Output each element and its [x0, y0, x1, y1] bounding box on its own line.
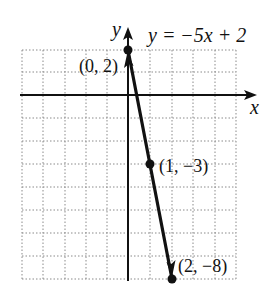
point-2-neg8: [168, 275, 177, 284]
point-1-neg3: [146, 160, 155, 169]
point-label-2-neg8: (2, −8): [178, 256, 227, 277]
point-label-0-2: (0, 2): [79, 56, 118, 77]
y-axis-label: y: [110, 18, 121, 41]
point-label-1-neg3: (1, −3): [159, 156, 208, 177]
equation-label: y = −5x + 2: [146, 24, 246, 47]
x-axis-label: x: [249, 96, 259, 118]
point-0-2: [124, 46, 133, 55]
coordinate-plane: y x y = −5x + 2 (0, 2) (1, −3) (2, −8): [0, 0, 266, 297]
